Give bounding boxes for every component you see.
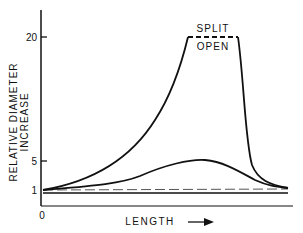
x-axis-label: LENGTH bbox=[125, 216, 175, 227]
dashed-baseline bbox=[43, 189, 288, 190]
y-tick-label-1: 1 bbox=[31, 185, 37, 196]
large-curve-descent bbox=[238, 37, 288, 188]
y-axis-label-line1: RELATIVE DIAMETER bbox=[8, 62, 19, 181]
annotation-open: OPEN bbox=[197, 41, 229, 52]
y-tick-label-5: 5 bbox=[31, 156, 37, 167]
chart: 20 5 1 0 RELATIVE DIAMETER INCREASE LENG… bbox=[0, 0, 303, 233]
x-axis-arrow-head bbox=[204, 218, 214, 226]
annotation-split: SPLIT bbox=[197, 23, 230, 34]
y-tick-label-20: 20 bbox=[26, 32, 38, 43]
y-axis-label-line2: INCREASE bbox=[19, 92, 30, 151]
x-tick-label-0: 0 bbox=[39, 210, 45, 221]
